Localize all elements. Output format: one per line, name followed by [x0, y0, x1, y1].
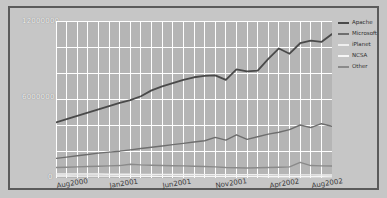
legend-label: NCSA	[352, 52, 367, 59]
chart-frame: 12000000 6000000 0 Aug2000Jan2001Jun2001…	[0, 0, 387, 198]
chart-border: 12000000 6000000 0 Aug2000Jan2001Jun2001…	[8, 6, 379, 190]
legend-item-apache[interactable]: Apache	[338, 17, 387, 28]
legend-swatch-icon	[338, 33, 349, 35]
legend-item-microsoft[interactable]: Microsoft	[338, 28, 387, 39]
x-axis-tick-3: Nov2001	[215, 177, 247, 190]
series-line-iplanet	[56, 174, 332, 175]
legend-label: Microsoft	[352, 30, 377, 37]
legend-swatch-icon	[338, 44, 349, 46]
legend-label: Other	[352, 63, 368, 70]
legend-label: iPlanet	[352, 41, 371, 48]
legend-swatch-icon	[338, 66, 349, 68]
y-axis-label-bottom: 0	[48, 173, 53, 181]
gridlines	[56, 21, 332, 178]
legend-item-other[interactable]: Other	[338, 61, 387, 72]
line-chart-svg	[56, 21, 332, 178]
series-line-ncsa	[56, 176, 332, 177]
legend-item-iplanet[interactable]: iPlanet	[338, 39, 387, 50]
x-axis-tick-5: Aug2002	[311, 177, 343, 190]
legend-swatch-icon	[338, 55, 349, 57]
x-axis-tick-4: Apr2002	[269, 177, 300, 190]
y-axis-label-mid: 6000000	[22, 93, 55, 101]
x-axis-tick-0: Aug2000	[56, 177, 88, 190]
legend-item-ncsa[interactable]: NCSA	[338, 50, 387, 61]
y-axis-label-top: 12000000	[22, 17, 59, 25]
plot-area	[56, 21, 332, 178]
chart-legend: ApacheMicrosoftiPlanetNCSAOther	[338, 17, 387, 72]
x-axis-tick-1: Jan2001	[109, 178, 139, 190]
x-axis-tick-2: Jun2001	[162, 178, 192, 190]
legend-label: Apache	[352, 19, 373, 26]
legend-swatch-icon	[338, 22, 349, 24]
